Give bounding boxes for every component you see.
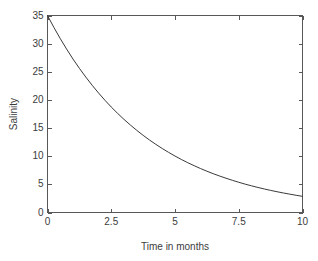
- y-tick-label: 25: [32, 67, 43, 77]
- axis-ticks: [48, 16, 304, 214]
- y-tick-label: 15: [32, 123, 43, 133]
- y-tick-label: 20: [32, 95, 43, 105]
- x-tick-label: 0: [45, 217, 51, 227]
- data-series-line: [48, 16, 303, 197]
- axes-frame: [48, 16, 303, 213]
- y-tick-label: 30: [32, 39, 43, 49]
- x-tick-label: 2.5: [104, 217, 118, 227]
- x-tick-label: 10: [297, 217, 308, 227]
- x-axis-label: Time in months: [141, 241, 209, 252]
- y-tick-label: 0: [38, 208, 44, 218]
- chart-figure: 05101520253035 02.557.510 Salinity Time …: [0, 0, 318, 261]
- y-tick-label: 5: [38, 179, 44, 189]
- y-tick-label: 10: [32, 151, 43, 161]
- x-tick-label: 7.5: [232, 217, 246, 227]
- y-axis-label: Salinity: [8, 98, 19, 130]
- x-tick-label: 5: [172, 217, 178, 227]
- y-tick-label: 35: [32, 11, 43, 21]
